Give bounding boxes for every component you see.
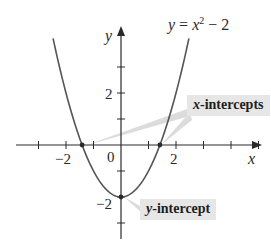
equation-equals: = — [175, 16, 192, 33]
y-axis-label: y — [105, 28, 112, 44]
x-tick-label-2: 2 — [170, 152, 178, 167]
y-intercept-callout: y-intercept — [140, 199, 216, 220]
callout-text: -intercepts — [200, 97, 264, 112]
y-tick-label-2: 2 — [105, 87, 113, 102]
y-intercept-point — [119, 195, 124, 200]
parabola-plot — [0, 0, 271, 241]
origin-label: 0 — [107, 150, 115, 165]
y-tick-label-neg2: −2 — [96, 197, 112, 212]
callout-var: x — [193, 97, 200, 112]
equation-rest: − 2 — [204, 16, 229, 33]
callout-text: -intercept — [152, 201, 210, 216]
y-axis-arrow-icon — [117, 26, 125, 36]
leader-to-left-x-intercept — [84, 108, 190, 146]
equation-label: y = x2 − 2 — [168, 16, 229, 33]
axes — [16, 34, 254, 239]
x-intercept-left-point — [80, 143, 85, 148]
x-tick-label-neg2: −2 — [55, 152, 71, 167]
x-axis-label: x — [248, 151, 255, 167]
x-intercepts-callout: x-intercepts — [187, 95, 270, 116]
x-intercept-right-point — [157, 143, 162, 148]
x-axis-arrow-icon — [252, 141, 262, 149]
